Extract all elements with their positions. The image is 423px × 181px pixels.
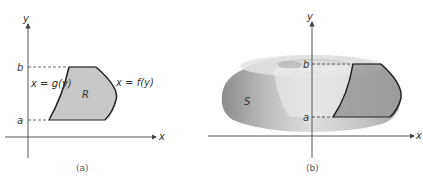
x-axis-label: x	[415, 130, 422, 141]
solid-s-hole-shadow	[278, 61, 302, 69]
x-axis-label: x	[158, 131, 165, 142]
tick-b-label: b	[17, 62, 23, 73]
y-axis-label: y	[22, 13, 30, 24]
solid-label: S	[244, 96, 251, 107]
tick-b-label: b	[303, 59, 309, 70]
region-label: R	[82, 89, 89, 100]
g-curve-label: x = g(y)	[30, 78, 72, 89]
caption-b: (b)	[306, 163, 319, 173]
panel-a: y x b a x = g(y) x = f(y) R (a)	[5, 13, 165, 173]
tick-a-label: a	[303, 112, 309, 123]
figure: y x b a x = g(y) x = f(y) R (a) y x	[0, 0, 423, 181]
panel-b: y x b a S (b)	[208, 11, 422, 173]
f-curve-label: x = f(y)	[115, 77, 154, 88]
caption-a: (a)	[76, 163, 89, 173]
y-axis-label: y	[306, 11, 314, 22]
tick-a-label: a	[17, 115, 23, 126]
